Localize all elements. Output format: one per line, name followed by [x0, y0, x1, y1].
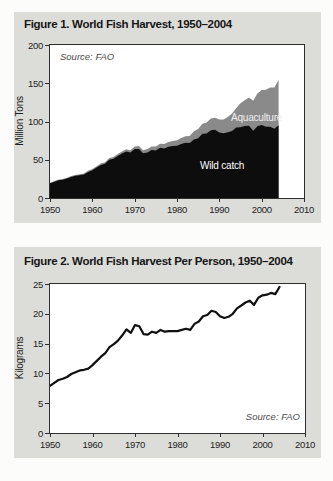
- y-tick-label: 0: [19, 193, 43, 204]
- y-tick-mark: [45, 314, 49, 315]
- y-tick-label: 5: [19, 398, 43, 409]
- y-tick-mark: [45, 284, 49, 285]
- x-tick-mark: [263, 434, 264, 437]
- y-tick-label: 50: [19, 154, 43, 165]
- wild-catch-area-label: Wild catch: [200, 160, 244, 171]
- x-tick-label: 1970: [120, 439, 150, 450]
- x-tick-mark: [50, 199, 51, 202]
- x-tick-mark: [262, 199, 263, 202]
- x-tick-label: 1980: [162, 204, 192, 215]
- y-tick-label: 25: [19, 279, 43, 290]
- y-tick-label: 100: [19, 116, 43, 127]
- y-tick-label: 200: [19, 40, 43, 51]
- x-tick-label: 1950: [35, 204, 65, 215]
- y-tick-mark: [45, 160, 49, 161]
- x-tick-label: 2010: [289, 204, 319, 215]
- x-tick-label: 2000: [248, 439, 278, 450]
- x-tick-mark: [93, 434, 94, 437]
- x-tick-mark: [219, 199, 220, 202]
- x-tick-mark: [304, 199, 305, 202]
- x-tick-label: 1960: [77, 204, 107, 215]
- aquaculture-area-label: Aquaculture: [231, 112, 282, 123]
- figure1-title: Figure 1. World Fish Harvest, 1950–2004: [24, 18, 232, 30]
- y-tick-mark: [45, 344, 49, 345]
- y-tick-mark: [45, 45, 49, 46]
- x-tick-label: 1970: [120, 204, 150, 215]
- x-tick-mark: [92, 199, 93, 202]
- fig2-source-label: Source: FAO: [220, 411, 300, 422]
- x-tick-mark: [135, 199, 136, 202]
- x-tick-mark: [177, 199, 178, 202]
- y-tick-mark: [45, 122, 49, 123]
- wild-catch-area: [50, 125, 279, 198]
- y-tick-mark: [45, 403, 49, 404]
- x-tick-label: 1990: [204, 204, 234, 215]
- x-tick-mark: [305, 434, 306, 437]
- x-tick-mark: [220, 434, 221, 437]
- x-tick-mark: [135, 434, 136, 437]
- page: Figure 1. World Fish Harvest, 1950–2004 …: [0, 0, 333, 481]
- per-person-line: [50, 287, 280, 386]
- x-tick-label: 1960: [78, 439, 108, 450]
- y-tick-label: 0: [19, 428, 43, 439]
- x-tick-label: 1990: [205, 439, 235, 450]
- figure1-panel: Figure 1. World Fish Harvest, 1950–2004 …: [14, 12, 321, 223]
- x-tick-mark: [178, 434, 179, 437]
- x-tick-label: 2010: [290, 439, 320, 450]
- figure2-title: Figure 2. World Fish Harvest Per Person,…: [24, 255, 293, 267]
- y-tick-label: 15: [19, 338, 43, 349]
- y-tick-label: 10: [19, 368, 43, 379]
- y-tick-mark: [45, 433, 49, 434]
- fig1-source-label: Source: FAO: [60, 51, 114, 62]
- fig2-y-axis-label: Kilograms: [14, 318, 26, 398]
- y-tick-label: 150: [19, 78, 43, 89]
- x-tick-label: 1950: [35, 439, 65, 450]
- x-tick-label: 1980: [163, 439, 193, 450]
- y-tick-label: 20: [19, 308, 43, 319]
- x-tick-mark: [50, 434, 51, 437]
- y-tick-mark: [45, 83, 49, 84]
- figure2-panel: Figure 2. World Fish Harvest Per Person,…: [14, 247, 321, 458]
- y-tick-mark: [45, 373, 49, 374]
- x-tick-label: 2000: [247, 204, 277, 215]
- y-tick-mark: [45, 198, 49, 199]
